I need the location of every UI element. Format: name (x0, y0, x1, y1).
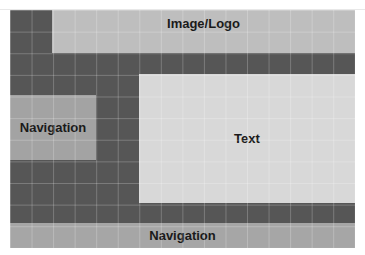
left-navigation-region: Navigation (10, 95, 96, 160)
layout-grid-canvas: Image/Logo Navigation Text Navigation (10, 10, 355, 248)
bottom-navigation-region: Navigation (10, 223, 355, 248)
image-logo-label: Image/Logo (167, 16, 240, 31)
bottom-navigation-label: Navigation (149, 228, 215, 243)
image-logo-region: Image/Logo (52, 10, 355, 53)
left-navigation-label: Navigation (20, 120, 86, 135)
text-label: Text (234, 131, 260, 146)
text-region: Text (139, 74, 355, 203)
